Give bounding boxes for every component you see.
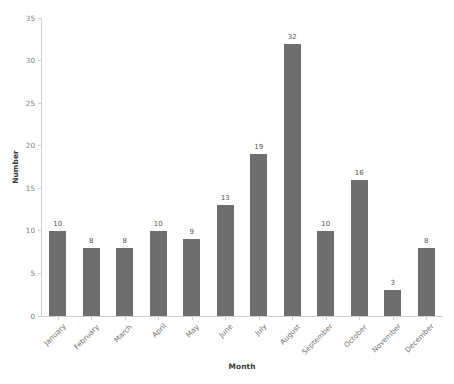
x-tick-label: June [217,322,234,339]
bar-group[interactable]: 8 [116,18,133,316]
x-tick-mark [292,317,293,320]
x-tick-label: November [370,322,403,355]
y-tick-label: 10 [26,225,35,236]
x-tick-mark [326,317,327,320]
x-tick-label: December [403,322,436,355]
x-tick-label: April [150,322,168,340]
x-axis-spine [41,316,443,317]
y-tick-mark [38,145,41,146]
bar-value-label: 10 [142,220,175,229]
y-tick-label: 20 [26,140,35,151]
bar[interactable] [317,231,334,316]
y-tick-label: 0 [30,311,35,322]
bar-value-label: 3 [376,279,409,288]
x-tick-label: October [342,322,369,349]
bar-group[interactable]: 9 [183,18,200,316]
y-tick-mark [38,18,41,19]
bar[interactable] [116,248,133,316]
y-tick-mark [38,230,41,231]
bar[interactable] [284,44,301,316]
y-tick-mark [38,188,41,189]
bar-group[interactable]: 13 [217,18,234,316]
bar-group[interactable]: 10 [317,18,334,316]
bar-value-label: 32 [276,33,309,42]
x-tick-mark [259,317,260,320]
bar-value-label: 10 [41,220,74,229]
y-tick-label: 30 [26,55,35,66]
bar-group[interactable]: 8 [83,18,100,316]
bar-group[interactable]: 10 [49,18,66,316]
x-tick-mark [225,317,226,320]
bar-group[interactable]: 3 [384,18,401,316]
y-tick-label: 35 [26,13,35,24]
bar-group[interactable]: 19 [250,18,267,316]
bar-group[interactable]: 16 [351,18,368,316]
bar-value-label: 8 [75,237,108,246]
bar-chart-figure: 05101520253035 Number 108810913193210163… [0,0,454,384]
bar-group[interactable]: 32 [284,18,301,316]
y-tick-mark [38,103,41,104]
bar-value-label: 10 [309,220,342,229]
y-axis-title: Number [9,18,21,316]
x-tick-mark [426,317,427,320]
bar[interactable] [351,180,368,316]
x-tick-label: August [278,322,302,346]
x-tick-label-text: November [370,322,403,355]
y-axis-spine [41,18,42,316]
x-tick-label: February [72,322,101,351]
x-tick-mark [158,317,159,320]
bar-value-label: 8 [108,237,141,246]
y-tick-label: 15 [26,183,35,194]
bar-value-label: 16 [343,169,376,178]
bar-value-label: 9 [175,228,208,237]
x-tick-label-text: August [278,322,302,346]
x-tick-label-text: March [112,322,134,344]
x-tick-label: March [112,322,134,344]
x-tick-mark [58,317,59,320]
x-tick-mark [359,317,360,320]
y-tick-mark [38,273,41,274]
x-tick-label-text: September [300,322,334,356]
y-tick-mark [38,60,41,61]
plot-area [41,18,443,316]
x-tick-mark [91,317,92,320]
bar-value-label: 13 [209,194,242,203]
bar-value-label: 8 [410,237,443,246]
y-tick-label: 5 [30,268,35,279]
x-axis-title: Month [41,362,443,371]
bar[interactable] [418,248,435,316]
bar-group[interactable]: 8 [418,18,435,316]
x-tick-label-text: December [403,322,436,355]
bar-group[interactable]: 10 [150,18,167,316]
x-tick-label: January [42,322,68,348]
x-tick-label-text: April [150,322,168,340]
bar[interactable] [250,154,267,316]
x-tick-label-text: June [217,322,234,339]
x-tick-label: July [253,322,269,338]
y-tick-label: 25 [26,98,35,109]
bar[interactable] [183,239,200,316]
bar[interactable] [150,231,167,316]
bar[interactable] [83,248,100,316]
bar[interactable] [217,205,234,316]
x-tick-mark [393,317,394,320]
bar[interactable] [384,290,401,316]
bar[interactable] [49,231,66,316]
x-tick-mark [192,317,193,320]
x-tick-label-text: February [72,322,101,351]
x-tick-label-text: July [253,322,269,338]
bar-value-label: 19 [242,143,275,152]
x-tick-label-text: May [184,322,201,339]
x-tick-mark [125,317,126,320]
x-tick-label: May [184,322,201,339]
y-tick-mark [38,316,41,317]
x-tick-label-text: January [42,322,68,348]
x-tick-label: September [300,322,334,356]
x-tick-label-text: October [342,322,369,349]
